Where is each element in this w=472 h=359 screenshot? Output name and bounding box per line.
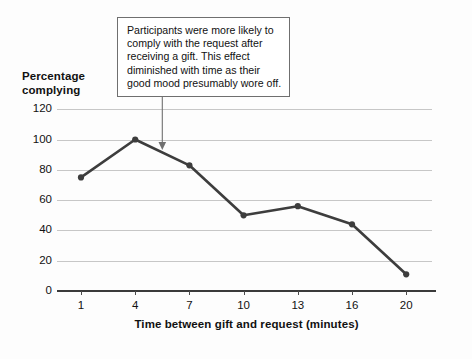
annotation-line-1: Participants were more likely to [127, 24, 274, 36]
annotation-line-2: comply with the request after [127, 37, 262, 49]
annotation-line-4: diminished with time as their [127, 64, 260, 76]
chart-figure: Percentage complying 020406080100120 147… [0, 0, 472, 359]
annotation-callout: Participants were more likely to comply … [117, 17, 290, 97]
annotation-line-3: receiving a gift. This effect [127, 50, 250, 62]
annotation-line-5: good mood presumably wore off. [127, 77, 281, 89]
annotation-arrow-head [159, 142, 167, 150]
